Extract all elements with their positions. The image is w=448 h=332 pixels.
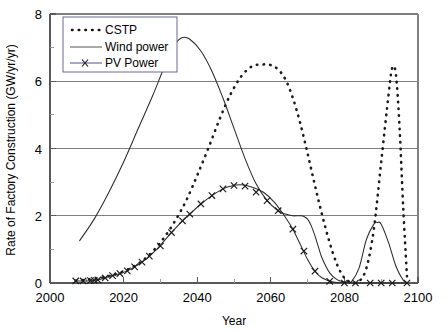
x-tick-label: 2080	[330, 290, 359, 305]
y-tick-label: 2	[35, 209, 42, 224]
x-axis-tick-labels: 200020202040206020802100	[36, 290, 433, 305]
pv-power-data-marker	[312, 268, 318, 274]
pv-power-data-marker	[220, 186, 226, 192]
series-markers-pv-power	[73, 182, 411, 286]
legend-label-wind-power: Wind power	[105, 40, 168, 54]
x-tick-label: 2100	[404, 290, 433, 305]
legend-label-pv-power: PV Power	[105, 56, 158, 70]
pv-power-data-marker	[117, 270, 123, 276]
x-tick-label: 2020	[109, 290, 138, 305]
pv-power-data-marker	[253, 189, 259, 195]
x-axis-title: Year	[222, 314, 246, 328]
y-tick-label: 4	[35, 142, 42, 157]
y-tick-label: 8	[35, 7, 42, 22]
legend-label-cstp: CSTP	[105, 23, 137, 37]
y-tick-label: 6	[35, 74, 42, 89]
chart-container: 200020202040206020802100 02468 Rate of F…	[0, 0, 448, 332]
series-line-wind-power	[79, 37, 407, 283]
x-tick-label: 2040	[183, 290, 212, 305]
series-line-cstp	[76, 64, 407, 283]
data-series-layer	[73, 37, 411, 286]
y-tick-label: 0	[35, 276, 42, 291]
pv-power-data-marker	[187, 211, 193, 217]
chart-legend: CSTP Wind power PV Power	[63, 17, 177, 72]
y-axis-tick-labels: 02468	[35, 7, 42, 291]
pv-power-data-marker	[131, 264, 137, 270]
factory-construction-rate-chart: 200020202040206020802100 02468 Rate of F…	[0, 0, 448, 332]
pv-power-data-marker	[179, 218, 185, 224]
pv-power-data-marker	[168, 229, 174, 235]
x-tick-label: 2060	[256, 290, 285, 305]
y-axis-title: Rate of Factory Construction (GW/yr/yr)	[4, 44, 18, 255]
pv-power-data-marker	[264, 197, 270, 203]
pv-power-data-marker	[290, 226, 296, 232]
pv-power-data-marker	[157, 243, 163, 249]
pv-power-data-marker	[209, 192, 215, 198]
pv-power-data-marker	[198, 201, 204, 207]
x-tick-label: 2000	[36, 290, 65, 305]
